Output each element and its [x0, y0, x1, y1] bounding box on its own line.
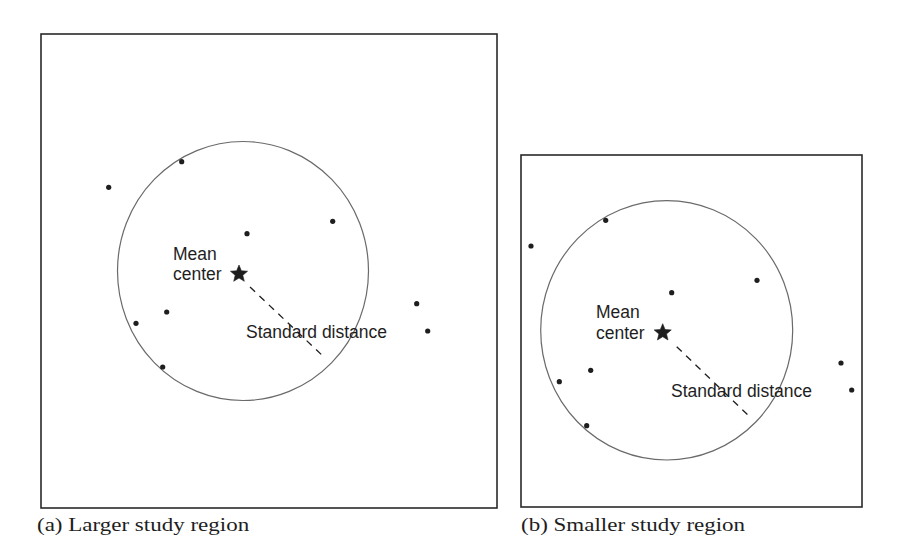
dot-icon [160, 364, 165, 369]
study-region-frame-a [41, 34, 497, 508]
dot-icon [425, 328, 430, 333]
star-icon [654, 324, 671, 340]
dot-icon [603, 218, 608, 223]
dot-icon [133, 321, 138, 326]
figure-stage: Mean center Standard distance (a) Larger… [0, 0, 903, 557]
center-label-b: center [596, 325, 645, 343]
dot-icon [588, 368, 593, 373]
dot-icon [849, 387, 854, 392]
dot-icon [754, 278, 759, 283]
dot-icon [414, 301, 419, 306]
dot-icon [838, 360, 843, 365]
caption-a: (a) Larger study region [37, 515, 249, 534]
dot-icon [164, 309, 169, 314]
dot-icon [528, 243, 533, 248]
dot-icon [584, 423, 589, 428]
dot-icon [330, 219, 335, 224]
caption-b: (b) Smaller study region [521, 515, 745, 534]
dot-icon [557, 379, 562, 384]
center-label-a: center [173, 266, 222, 284]
diagram-canvas [0, 0, 903, 557]
study-region-frame-b [521, 155, 862, 507]
mean-label-a: Mean [173, 246, 217, 264]
dot-icon [244, 231, 249, 236]
star-icon [230, 265, 247, 281]
dot-icon [669, 290, 674, 295]
mean-label-b: Mean [596, 304, 640, 322]
dot-icon [106, 185, 111, 190]
standard-distance-label-a: Standard distance [246, 324, 387, 342]
dot-icon [179, 159, 184, 164]
standard-distance-label-b: Standard distance [671, 383, 812, 401]
